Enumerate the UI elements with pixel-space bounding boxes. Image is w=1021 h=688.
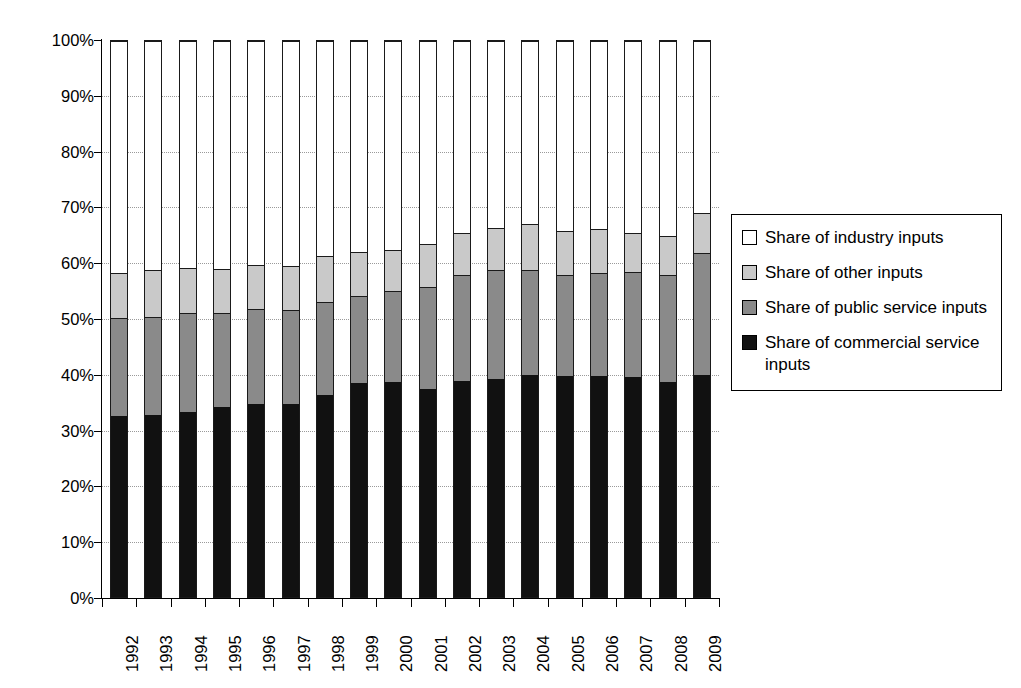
y-tick-mark xyxy=(94,319,102,320)
x-tick-mark xyxy=(411,598,412,607)
bar-segment-commercial xyxy=(351,383,367,597)
bar-segment-other xyxy=(625,233,641,272)
x-tick-mark xyxy=(479,598,480,607)
bar-segment-public xyxy=(317,302,333,395)
bar-segment-public xyxy=(111,318,127,416)
y-tick-mark xyxy=(94,431,102,432)
x-tick-mark xyxy=(342,598,343,607)
bar-1998 xyxy=(316,40,334,598)
bar-segment-other xyxy=(111,273,127,318)
bar-2002 xyxy=(453,40,471,598)
y-tick-mark xyxy=(94,152,102,153)
bar-segment-industry xyxy=(180,41,196,268)
bar-segment-other xyxy=(145,270,161,318)
black-swatch-icon xyxy=(742,335,757,350)
bar-segment-commercial xyxy=(522,375,538,597)
y-tick-mark xyxy=(94,263,102,264)
bar-segment-other xyxy=(351,252,367,295)
y-tick-label: 80% xyxy=(32,144,94,160)
legend-item[interactable]: Share of industry inputs xyxy=(740,227,991,249)
bar-segment-other xyxy=(591,229,607,272)
bar-segment-commercial xyxy=(694,375,710,597)
y-tick-label: 0% xyxy=(32,590,94,606)
bar-segment-commercial xyxy=(283,404,299,597)
y-tick-label: 70% xyxy=(32,199,94,215)
bar-segment-industry xyxy=(317,41,333,256)
bar-segment-other xyxy=(488,228,504,270)
bar-segment-other xyxy=(694,213,710,252)
bar-segment-commercial xyxy=(111,416,127,597)
bar-1999 xyxy=(350,40,368,598)
bar-segment-industry xyxy=(145,41,161,270)
legend-item-label: Share of commercial service inputs xyxy=(765,332,991,376)
bar-segment-public xyxy=(283,310,299,403)
stacked-bar-chart: 100%90%80%70%60%50%40%30%20%10%0% 199219… xyxy=(0,0,1021,688)
bar-segment-public xyxy=(660,275,676,382)
bar-2000 xyxy=(384,40,402,598)
bar-segment-public xyxy=(420,287,436,388)
bar-segment-other xyxy=(420,244,436,287)
bar-segment-commercial xyxy=(420,389,436,598)
x-tick-mark xyxy=(102,598,103,607)
x-tick-mark xyxy=(205,598,206,607)
bar-2006 xyxy=(590,40,608,598)
bar-segment-industry xyxy=(488,41,504,228)
bar-segment-commercial xyxy=(454,381,470,597)
bar-segment-industry xyxy=(454,41,470,233)
legend-item[interactable]: Share of other inputs xyxy=(740,262,991,284)
white-swatch-icon xyxy=(742,230,757,245)
bar-segment-public xyxy=(248,309,264,404)
y-tick-label: 90% xyxy=(32,88,94,104)
bar-segment-industry xyxy=(694,41,710,213)
x-tick-mark xyxy=(582,598,583,607)
x-tick-mark xyxy=(650,598,651,607)
y-tick-label: 60% xyxy=(32,255,94,271)
bar-segment-public xyxy=(145,317,161,415)
y-tick-mark xyxy=(94,207,102,208)
y-tick-label: 40% xyxy=(32,367,94,383)
bar-segment-industry xyxy=(214,41,230,269)
legend-item[interactable]: Share of commercial service inputs xyxy=(740,332,991,376)
bar-segment-industry xyxy=(522,41,538,224)
bar-segment-public xyxy=(351,296,367,383)
bar-segment-commercial xyxy=(557,376,573,597)
bar-1997 xyxy=(282,40,300,598)
x-tick-mark xyxy=(719,598,720,607)
x-tick-mark xyxy=(548,598,549,607)
bar-segment-industry xyxy=(660,41,676,236)
bar-2001 xyxy=(419,40,437,598)
bar-segment-public xyxy=(180,313,196,412)
y-tick-mark xyxy=(94,96,102,97)
y-tick-label: 100% xyxy=(32,32,94,48)
bar-segment-public xyxy=(214,313,230,408)
bar-segment-industry xyxy=(351,41,367,252)
bar-segment-commercial xyxy=(248,404,264,597)
y-tick-label: 20% xyxy=(32,478,94,494)
bar-segment-public xyxy=(488,270,504,379)
bar-segment-commercial xyxy=(214,407,230,597)
bar-segment-commercial xyxy=(317,395,333,597)
bar-segment-other xyxy=(248,265,264,309)
bar-segment-industry xyxy=(557,41,573,231)
x-tick-mark xyxy=(685,598,686,607)
bar-segment-other xyxy=(660,236,676,275)
y-tick-mark xyxy=(94,486,102,487)
bar-segment-other xyxy=(180,268,196,313)
y-tick-mark xyxy=(94,40,102,41)
bar-segment-other xyxy=(454,233,470,275)
bar-segment-industry xyxy=(283,41,299,266)
x-tick-mark xyxy=(239,598,240,607)
bar-segment-other xyxy=(522,224,538,269)
x-tick-mark xyxy=(513,598,514,607)
bar-1993 xyxy=(144,40,162,598)
bar-segment-other xyxy=(317,256,333,302)
bar-segment-public xyxy=(454,275,470,381)
bar-segment-industry xyxy=(385,41,401,250)
legend-item-label: Share of public service inputs xyxy=(765,297,991,319)
bar-segment-commercial xyxy=(625,377,641,597)
bar-segment-public xyxy=(591,273,607,376)
x-tick-mark xyxy=(616,598,617,607)
legend-item[interactable]: Share of public service inputs xyxy=(740,297,991,319)
light-gray-swatch-icon xyxy=(742,265,757,280)
bar-segment-other xyxy=(214,269,230,313)
